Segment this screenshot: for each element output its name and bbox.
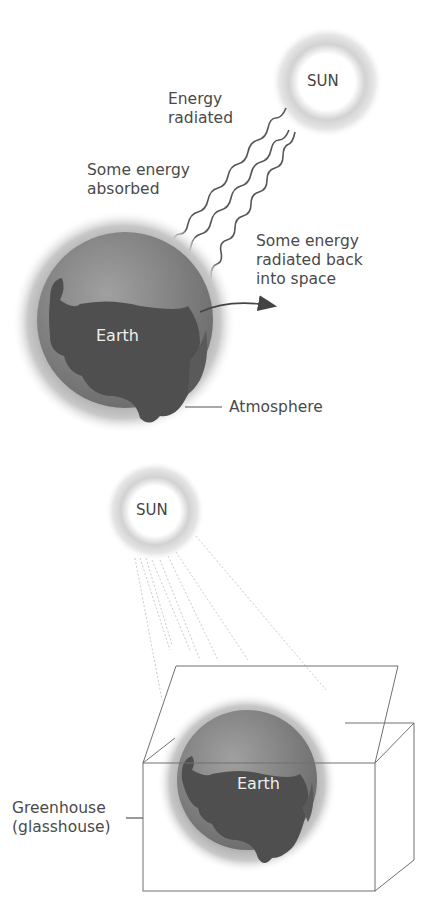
sun-rays	[135, 536, 326, 700]
sun-label-bottom: SUN	[136, 501, 168, 519]
radiated-back-label: Some energy radiated back into space	[256, 232, 363, 289]
earth-label-bottom: Earth	[237, 774, 280, 793]
energy-radiated-label: Energy radiated	[168, 90, 233, 128]
sun-label-top: SUN	[307, 72, 339, 90]
greenhouse-effect-diagram	[0, 0, 445, 913]
earth-label-top: Earth	[96, 326, 139, 345]
greenhouse-label: Greenhouse (glasshouse)	[12, 799, 111, 837]
energy-absorbed-label: Some energy absorbed	[87, 161, 190, 199]
earth-top	[12, 210, 236, 434]
atmosphere-label: Atmosphere	[229, 398, 323, 417]
